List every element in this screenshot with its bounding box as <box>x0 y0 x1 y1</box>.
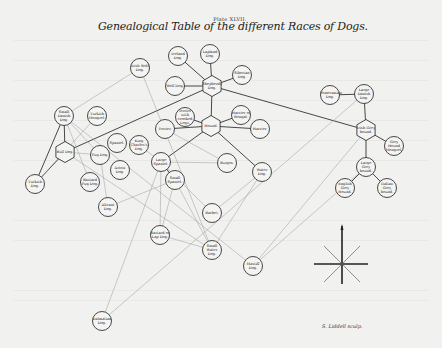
node-label-burgos: Burgos. <box>217 161 237 165</box>
node-label-hound: Hound. <box>201 124 221 128</box>
node-label-pug: Pug Dog. <box>90 153 110 157</box>
node-label-bastard-pug-2: Bastard or Lap Dog. <box>150 231 170 239</box>
node-label-siberian: Siberian Dog. <box>232 71 252 79</box>
node-label-irish-greyhound: Irish Grey hound. <box>356 126 376 134</box>
node-label-large-spaniel: Large Spaniel. <box>151 158 171 166</box>
node-label-spaniel-dog: Spaniel. <box>107 141 127 145</box>
edge-terrier-burgos <box>165 129 227 163</box>
edge-bull-small-water <box>65 152 212 250</box>
node-label-lapland: Lapland Dog. <box>200 50 220 58</box>
edge-large-danish-dalmatian <box>102 94 364 321</box>
node-label-irish-wolf: Irish Wolf Dog. <box>130 64 150 72</box>
node-label-large-greyhound: Large Grey hound. <box>356 161 376 173</box>
node-label-large-danish: Large Danish Dog. <box>354 88 374 100</box>
edge-large-spaniel-dalmatian <box>102 162 161 321</box>
node-label-terrier-legs: Terrier with crooked Legs. <box>175 109 195 125</box>
node-label-english-greyhound: English Grey Hound. <box>335 182 355 194</box>
node-label-small-water: Small Water Dog. <box>202 244 222 256</box>
node-label-dalmatian: Dalmatian Dog. <box>92 317 112 325</box>
node-label-king-charles: King Charles's Dog. <box>129 139 149 151</box>
node-label-wolf: Wolf Dog. <box>165 84 185 88</box>
node-label-turkish-mongrel: Turkish Mongrel. <box>87 112 107 120</box>
node-label-italian-greyhound: Italian Grey hound. <box>377 182 397 194</box>
node-label-terrier: Terrier. <box>155 127 175 131</box>
node-label-iceland: Iceland Dog. <box>168 52 188 60</box>
compass-rose-icon <box>314 224 368 284</box>
node-label-pomeranian: Pomeranian Dog. <box>320 91 340 99</box>
node-label-small-danish: Small Danish Dog. <box>54 110 74 122</box>
edge-irish-greyhound-mastiff <box>253 130 366 266</box>
node-label-barbet: Barbet. <box>202 211 222 215</box>
node-label-bull: Bull Dog. <box>55 150 75 154</box>
node-label-alicant: Alicant Dog. <box>98 203 118 211</box>
node-label-artois: Artois Dog. <box>110 166 130 174</box>
node-label-small-spaniel: Small Spaniel. <box>165 176 185 184</box>
node-label-mastiff: Mastiff Dog. <box>243 262 263 270</box>
genealogy-diagram <box>0 0 442 348</box>
node-label-harrier-bengal: Harrier of Bengal. <box>231 111 251 119</box>
edge-large-spaniel-bastard-pug-2 <box>160 162 161 235</box>
node-label-water: Water Dog. <box>252 168 272 176</box>
node-label-grey-mongrel: Grey Hound Mongrel. <box>384 140 404 152</box>
node-label-shepherd: Shepherds Dog. <box>202 82 222 90</box>
node-label-bastard-pug: Bastard Pug Dog. <box>80 178 100 186</box>
node-label-harrier: Harrier. <box>250 127 270 131</box>
engraver-signature: S. Liddell sculp. <box>322 323 362 329</box>
node-label-turkish: Turkish Dog. <box>25 180 45 188</box>
